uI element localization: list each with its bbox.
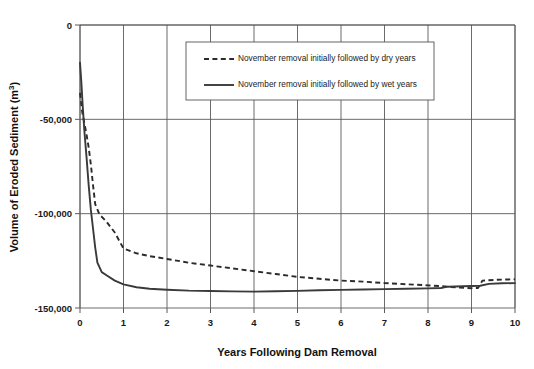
y-tick-label: -150,000 [34, 303, 72, 314]
x-tick-label: 9 [469, 317, 474, 328]
y-tick-label: -100,000 [34, 208, 72, 219]
x-axis-title: Years Following Dam Removal [217, 346, 377, 358]
legend-label: November removal initially followed by w… [238, 79, 417, 89]
y-tick-label: 0 [67, 20, 72, 31]
x-tick-label: 10 [510, 317, 521, 328]
chart-container: 0-50,000-100,000-150,000 012345678910 No… [0, 0, 534, 369]
legend-box [186, 42, 434, 100]
chart-legend: November removal initially followed by d… [186, 42, 434, 100]
y-tick-label: -50,000 [40, 114, 72, 125]
legend-label: November removal initially followed by d… [238, 53, 416, 63]
x-tick-label: 6 [338, 317, 343, 328]
y-axis-title-close: ) [8, 81, 20, 85]
x-tick-label: 2 [164, 317, 169, 328]
x-tick-label: 3 [208, 317, 213, 328]
x-tick-label: 4 [251, 317, 257, 328]
y-axis-title: Volume of Eroded Sediment (m3) [7, 81, 20, 252]
eroded-sediment-line-chart: 0-50,000-100,000-150,000 012345678910 No… [0, 0, 534, 369]
y-axis-title-base: Volume of Eroded Sediment (m [8, 90, 20, 253]
x-tick-label: 8 [425, 317, 430, 328]
x-tick-label: 7 [382, 317, 387, 328]
x-tick-label: 5 [295, 317, 301, 328]
x-tick-label: 1 [121, 317, 127, 328]
x-tick-label: 0 [77, 317, 82, 328]
